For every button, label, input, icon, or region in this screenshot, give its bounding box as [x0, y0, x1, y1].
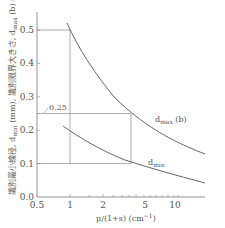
x-tick-label: 10 — [169, 200, 181, 210]
x-tick-label: 1 — [67, 200, 73, 210]
y-tick-label: 0.3 — [20, 92, 35, 102]
y-ticks — [37, 30, 40, 164]
series-dmax-line — [67, 23, 205, 154]
y-axis-label: 識別最小線径, dmin (mm), 識別限界大きさ, dmax (b) (mm… — [7, 0, 18, 195]
dmin-label: dmin — [148, 158, 165, 168]
x-tick-label: 5 — [142, 200, 148, 210]
y-tick-label: 0.4 — [20, 58, 35, 68]
x-axis-label: μ/(1+s) (cm−1) — [96, 212, 156, 223]
y-tick-label: 0.2 — [20, 125, 34, 135]
x-tick-label: 2 — [100, 200, 106, 210]
annotation-leader — [44, 108, 48, 113]
x-ticks — [70, 194, 178, 197]
y-tick-label: 0.5 — [20, 25, 35, 35]
chart: 0.5 1 2 5 10 0.0 0.1 0.2 0.3 0.4 0.5 0.2… — [0, 0, 225, 228]
y-tick-label: 0.1 — [20, 159, 34, 169]
guide-lines — [37, 30, 131, 164]
y-tick-label: 0.0 — [20, 192, 35, 202]
series-dmin-line — [63, 126, 205, 183]
annotation-025: 0.25 — [49, 103, 67, 112]
dmax-label: dmax (b) — [155, 115, 187, 125]
